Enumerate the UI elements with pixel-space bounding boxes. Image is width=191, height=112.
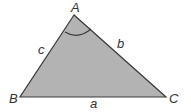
side-label-c: c [38,42,45,57]
side-label-b: b [117,36,124,51]
vertex-label-c: C [169,91,179,106]
triangle-diagram: A B C a b c [0,0,191,112]
vertex-label-b: B [9,91,18,106]
side-label-a: a [90,96,97,111]
vertex-label-a: A [70,0,80,15]
